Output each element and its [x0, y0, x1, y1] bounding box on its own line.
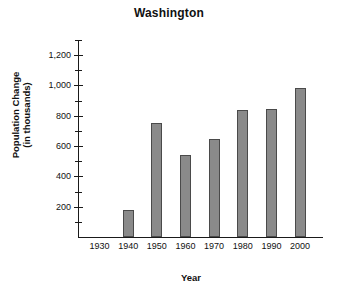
bar-1990: [266, 109, 277, 237]
y-tick-minor: [75, 222, 82, 223]
y-tick-minor: [75, 131, 82, 132]
y-tick-label: 1,200: [48, 50, 71, 60]
y-tick-label: 1,000: [48, 80, 71, 90]
x-tick-label: 1990: [261, 241, 281, 251]
y-axis-title: Population Change (in thousands): [10, 50, 32, 180]
bar-1970: [209, 139, 220, 237]
x-tick-label: 2000: [290, 241, 310, 251]
y-axis-title-line-2: (in thousands): [21, 50, 32, 180]
y-tick-major: [74, 116, 83, 117]
plot-area: 2004006008001,0001,200 19301940195019601…: [78, 40, 323, 238]
y-tick-major: [74, 55, 83, 56]
x-tick-label: 1930: [89, 241, 109, 251]
y-tick-label: 400: [56, 171, 71, 181]
x-tick-label: 1970: [204, 241, 224, 251]
bar-1980: [237, 110, 248, 237]
y-tick-label: 800: [56, 111, 71, 121]
x-axis-title: Year: [0, 272, 338, 283]
y-tick-minor: [75, 101, 82, 102]
y-tick-major: [74, 146, 83, 147]
chart-title: Washington: [0, 6, 338, 20]
bar-1940: [123, 210, 134, 237]
y-tick-major: [74, 176, 83, 177]
y-tick-minor: [75, 70, 82, 71]
bar-1960: [180, 155, 191, 237]
y-tick-major: [74, 207, 83, 208]
x-tick-label: 1980: [233, 241, 253, 251]
x-tick-label: 1940: [118, 241, 138, 251]
y-tick-label: 200: [56, 202, 71, 212]
y-tick-major: [74, 85, 83, 86]
x-tick-label: 1950: [147, 241, 167, 251]
y-tick-label: 600: [56, 141, 71, 151]
bar-2000: [295, 88, 306, 237]
x-axis-line: [78, 237, 323, 238]
bar-1950: [151, 123, 162, 237]
y-axis-title-line-1: Population Change: [10, 50, 21, 180]
y-tick-minor: [75, 161, 82, 162]
bar-chart: Washington Population Change (in thousan…: [0, 0, 338, 300]
y-tick-minor: [75, 192, 82, 193]
y-tick-minor: [75, 40, 82, 41]
x-tick-label: 1960: [175, 241, 195, 251]
